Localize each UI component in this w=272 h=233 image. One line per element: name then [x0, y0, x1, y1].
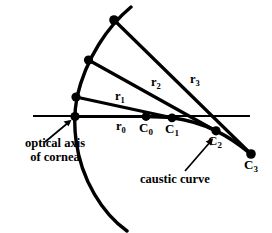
optical-axis-caption: optical axis of cornea: [4, 137, 106, 164]
cornea-node-2: [84, 55, 93, 64]
point-label-c3: C3: [244, 158, 258, 172]
ray-label-r2: r2: [151, 76, 161, 90]
point-label-c0: C0: [139, 121, 153, 135]
cornea-node-3: [109, 15, 119, 25]
point-label-c2: C2: [208, 134, 222, 148]
ray-label-r3: r3: [190, 73, 200, 87]
cornea-vertex-node: [70, 112, 79, 121]
ray-label-r0: r0: [116, 120, 126, 134]
diagram-canvas: [0, 0, 272, 233]
optical-axis-caption-line1: optical axis: [4, 137, 106, 151]
caustic-curve-path: [146, 117, 251, 155]
point-label-c1: C1: [165, 122, 179, 136]
caustic-curve-caption: caustic curve: [140, 173, 210, 187]
caustic-curve-diagram: r0 r1 r2 r3 C0 C1 C2 C3 optical axis of …: [0, 0, 272, 233]
ray-label-r1: r1: [115, 90, 125, 104]
cornea-arc: [75, 7, 131, 231]
optical-axis-caption-line2: of cornea: [4, 151, 106, 165]
cornea-node-1: [71, 92, 80, 101]
